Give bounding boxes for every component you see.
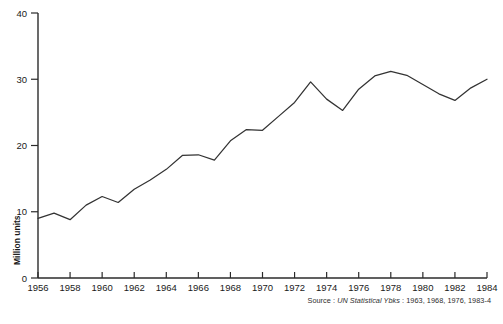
x-tick-label: 1968 xyxy=(220,282,241,293)
x-tick-label: 1978 xyxy=(380,282,401,293)
x-tick-label: 1962 xyxy=(124,282,145,293)
source-note: Source : UN Statistical Ybks : 1963, 196… xyxy=(307,296,491,305)
x-tick-label: 1970 xyxy=(252,282,273,293)
chart-page: 40 30 20 10 0 Million units xyxy=(0,0,503,324)
x-tick-label: 1980 xyxy=(412,282,433,293)
y-tick-label: 40 xyxy=(16,8,27,19)
source-prefix: Source : xyxy=(307,296,337,305)
y-axis-title: Million units xyxy=(12,215,22,265)
x-axis-ticks xyxy=(38,272,487,278)
x-tick-label: 1984 xyxy=(476,282,497,293)
series-line-million-units xyxy=(38,71,487,219)
y-tick-label: 0 xyxy=(22,273,27,284)
x-tick-label: 1964 xyxy=(156,282,177,293)
y-tick-label: 20 xyxy=(16,140,27,151)
x-tick-label: 1956 xyxy=(27,282,48,293)
x-tick-label: 1974 xyxy=(316,282,337,293)
y-axis-ticks xyxy=(31,13,38,278)
x-tick-label: 1958 xyxy=(59,282,80,293)
source-reference: UN Statistical Ybks xyxy=(337,296,400,305)
x-tick-label: 1982 xyxy=(444,282,465,293)
x-tick-label: 1966 xyxy=(188,282,209,293)
x-tick-label: 1976 xyxy=(348,282,369,293)
source-suffix: : 1963, 1968, 1976, 1983-4 xyxy=(400,296,491,305)
y-tick-label: 30 xyxy=(16,74,27,85)
x-tick-label: 1972 xyxy=(284,282,305,293)
x-tick-label: 1960 xyxy=(92,282,113,293)
line-chart: 40 30 20 10 0 Million units xyxy=(0,0,503,324)
x-axis-tick-labels: 1956 1958 1960 1962 1964 1966 1968 1970 … xyxy=(27,282,497,293)
